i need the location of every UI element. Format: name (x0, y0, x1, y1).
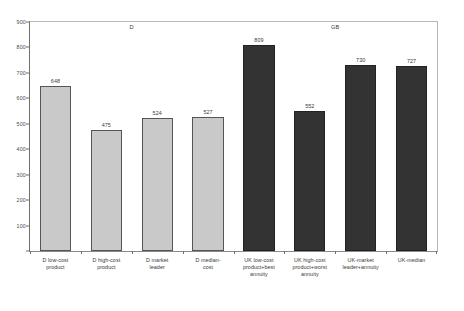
x-axis-category-label: D market leader (132, 257, 183, 271)
bar-slot (91, 22, 122, 251)
x-axis-tick-mark (234, 251, 235, 254)
bar-slot (40, 22, 71, 251)
bar[interactable] (294, 111, 325, 251)
x-axis-tick-mark (386, 251, 387, 254)
bar[interactable] (142, 118, 173, 251)
bar[interactable] (40, 86, 71, 251)
bar[interactable] (91, 130, 122, 251)
bar-slot (396, 22, 427, 251)
group-header: GB (331, 24, 340, 30)
x-axis-category-label: D median- cost (183, 257, 234, 271)
bar[interactable] (345, 65, 376, 251)
bar-value-label: 552 (305, 103, 314, 109)
x-axis-tick-mark (132, 251, 133, 254)
bar[interactable] (192, 117, 223, 251)
y-axis-tick-marks (0, 21, 29, 252)
plot-area: 648475524527809552730727 (30, 22, 437, 251)
x-axis-category-label: UK-market leader+annuity (335, 257, 386, 271)
bar-value-label: 648 (51, 78, 60, 84)
x-axis-tick-mark (183, 251, 184, 254)
x-axis-tick-mark (81, 251, 82, 254)
x-axis-tick-labels: D low-cost productD high-cost productD m… (30, 257, 437, 297)
x-axis-tick-mark (284, 251, 285, 254)
x-axis-category-label: UK-median (386, 257, 437, 264)
bar[interactable] (243, 45, 274, 251)
bar-value-label: 730 (356, 57, 365, 63)
x-axis-category-label: UK high-cost product+worst annuity (284, 257, 335, 279)
x-axis-category-label: D low-cost product (30, 257, 81, 271)
x-axis-category-label: UK low-cost product+best annuity (234, 257, 285, 279)
x-axis-category-label: D high-cost product (81, 257, 132, 271)
group-header: D (130, 24, 134, 30)
bar-value-label: 727 (407, 58, 416, 64)
bar-slot (243, 22, 274, 251)
bar-value-label: 524 (153, 110, 162, 116)
bar-value-label: 809 (254, 37, 263, 43)
x-axis-tick-mark (335, 251, 336, 254)
bar-slot (192, 22, 223, 251)
bar-slot (142, 22, 173, 251)
bar-slot (294, 22, 325, 251)
bar-value-label: 527 (203, 109, 212, 115)
x-axis-tick-mark (30, 251, 31, 254)
x-axis-tick-mark (436, 251, 437, 254)
bar-value-label: 475 (102, 122, 111, 128)
x-axis-tick-marks (30, 251, 437, 255)
bar[interactable] (396, 66, 427, 251)
bar-chart: 100200300400500600700800900 648475524527… (0, 0, 464, 311)
